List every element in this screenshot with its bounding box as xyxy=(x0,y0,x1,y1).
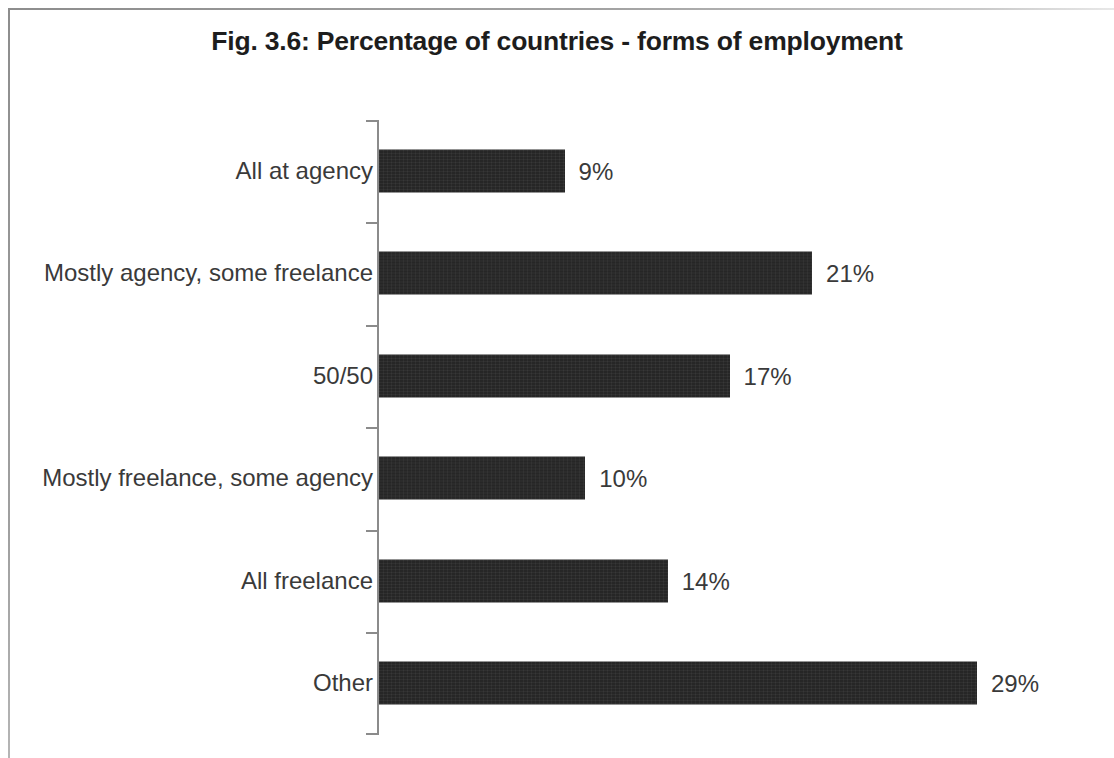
bar-value-label: 9% xyxy=(579,157,614,185)
bar-track: 21% xyxy=(379,252,874,295)
bar-value-label: 21% xyxy=(826,259,874,287)
bar-fill[interactable] xyxy=(379,560,668,603)
bar-category-label: All freelance xyxy=(241,567,373,595)
bar-track: 10% xyxy=(379,457,647,500)
bar-track: 14% xyxy=(379,560,730,603)
bar-fill[interactable] xyxy=(379,662,977,705)
bar-track: 29% xyxy=(379,662,1039,705)
bar-category-label: All at agency xyxy=(236,157,373,185)
bar-track: 17% xyxy=(379,355,792,398)
bar-row: Other 29% xyxy=(0,632,1114,735)
bar-value-label: 17% xyxy=(744,362,792,390)
bar-track: 9% xyxy=(379,150,613,193)
figure-container: Fig. 3.6: Percentage of countries - form… xyxy=(0,0,1114,758)
bar-category-label: Mostly agency, some freelance xyxy=(44,259,373,287)
bar-category-label: Mostly freelance, some agency xyxy=(42,464,373,492)
bar-value-label: 10% xyxy=(599,464,647,492)
bar-row: Mostly freelance, some agency 10% xyxy=(0,427,1114,530)
bar-fill[interactable] xyxy=(379,457,585,500)
plot-area: All at agency 9% Mostly agency, some fre… xyxy=(0,0,1114,758)
bar-value-label: 29% xyxy=(991,669,1039,697)
bar-category-label: 50/50 xyxy=(313,362,373,390)
bar-row: All freelance 14% xyxy=(0,530,1114,633)
bar-row: Mostly agency, some freelance 21% xyxy=(0,222,1114,325)
bar-category-label: Other xyxy=(313,669,373,697)
bar-fill[interactable] xyxy=(379,150,565,193)
bar-value-label: 14% xyxy=(682,567,730,595)
bar-fill[interactable] xyxy=(379,355,730,398)
bar-row: 50/50 17% xyxy=(0,325,1114,428)
bar-row: All at agency 9% xyxy=(0,120,1114,223)
bar-fill[interactable] xyxy=(379,252,812,295)
